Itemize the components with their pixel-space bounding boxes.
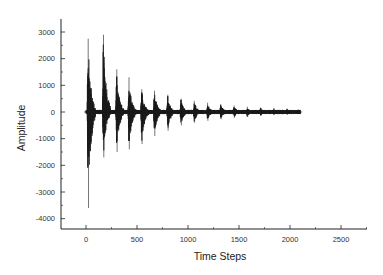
y-axis: 3000200010000-1000-2000-3000-4000 bbox=[36, 19, 65, 229]
x-tick-label: 500 bbox=[131, 235, 144, 244]
y-tick-label: -2000 bbox=[36, 161, 55, 170]
x-tick-label: 0 bbox=[84, 235, 88, 244]
x-axis: 05001000150020002500 bbox=[61, 225, 367, 244]
y-axis-title: Amplitude bbox=[15, 105, 27, 152]
x-tick-label: 1500 bbox=[231, 235, 248, 244]
y-tick-label: -4000 bbox=[36, 214, 55, 223]
chart-figure: 3000200010000-1000-2000-3000-4000 050010… bbox=[0, 0, 383, 275]
signal-trace bbox=[84, 35, 302, 208]
plot-area bbox=[84, 35, 302, 208]
x-axis-title: Time Steps bbox=[194, 250, 247, 262]
y-tick-label: 3000 bbox=[38, 28, 55, 37]
y-tick-label: 2000 bbox=[38, 54, 55, 63]
y-tick-label: -1000 bbox=[36, 134, 55, 143]
y-tick-label: 1000 bbox=[38, 81, 55, 90]
x-tick-label: 2000 bbox=[282, 235, 299, 244]
y-tick-label: 0 bbox=[51, 108, 55, 117]
y-tick-label: -3000 bbox=[36, 188, 55, 197]
x-tick-label: 1000 bbox=[180, 235, 197, 244]
x-tick-label: 2500 bbox=[333, 235, 350, 244]
